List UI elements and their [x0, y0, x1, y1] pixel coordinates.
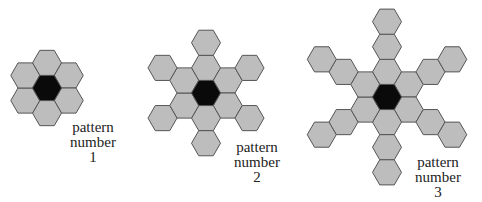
label-text: pattern — [222, 140, 292, 155]
label-text: pattern — [403, 155, 473, 170]
grey-hexagon — [192, 30, 221, 55]
label-text: number — [222, 155, 292, 170]
pattern-3-label: pattern number 3 — [403, 155, 473, 200]
label-text: number — [403, 170, 473, 185]
grey-hexagon — [192, 131, 221, 156]
grey-hexagon — [373, 9, 402, 34]
hexagon-patterns-figure: pattern number 1 pattern number 2 patter… — [0, 0, 482, 202]
label-number: 3 — [403, 185, 473, 200]
label-text: pattern — [58, 120, 128, 135]
pattern-2-label: pattern number 2 — [222, 140, 292, 185]
label-number: 1 — [58, 150, 128, 165]
grey-hexagon — [373, 34, 402, 59]
grey-hexagon — [373, 135, 402, 160]
label-number: 2 — [222, 170, 292, 185]
pattern-1-label: pattern number 1 — [58, 120, 128, 165]
grey-hexagon — [373, 160, 402, 185]
label-text: number — [58, 135, 128, 150]
